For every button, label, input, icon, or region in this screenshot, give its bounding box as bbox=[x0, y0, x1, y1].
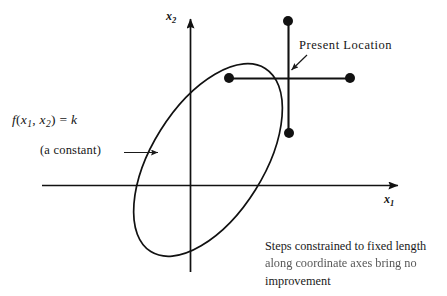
y-axis-label-subscript: 2 bbox=[172, 15, 176, 25]
present-location-label: Present Location bbox=[299, 38, 392, 53]
formula-equals: = bbox=[56, 112, 71, 127]
present-location-pointer-arrow bbox=[292, 55, 308, 70]
constant-note-label: (a constant) bbox=[40, 143, 101, 158]
caption-line-3: improvement bbox=[265, 273, 445, 290]
step-point-up-dot bbox=[283, 16, 293, 26]
x-axis-label: x1 bbox=[384, 192, 394, 208]
step-point-down-dot bbox=[284, 128, 294, 138]
x-axis-label-subscript: 1 bbox=[390, 198, 394, 208]
y-axis-label: x2 bbox=[166, 9, 176, 25]
caption-line-2: along coordinate axes bring no bbox=[265, 255, 445, 272]
caption-block: Steps constrained to fixed length along … bbox=[265, 238, 445, 290]
formula-value-k: k bbox=[71, 112, 77, 127]
step-point-right-dot bbox=[345, 73, 355, 83]
step-point-left-dot bbox=[224, 73, 234, 83]
caption-line-1: Steps constrained to fixed length bbox=[265, 238, 445, 255]
contour-formula-label: f(x1, x2) = k bbox=[12, 112, 77, 130]
figure-root: f(x1, x2) = k (a constant) Present Locat… bbox=[0, 0, 447, 296]
formula-comma: , bbox=[32, 112, 39, 127]
